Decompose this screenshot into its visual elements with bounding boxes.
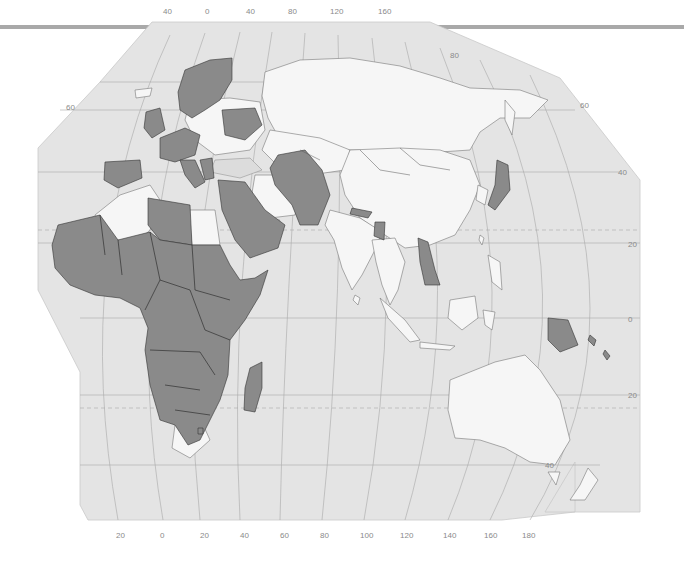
- svg-text:140: 140: [443, 531, 457, 540]
- svg-text:20: 20: [628, 391, 637, 400]
- bottom-longitude-labels: 20 0 20 40 60 80 100 120 140 160 180: [116, 531, 536, 540]
- svg-text:40: 40: [240, 531, 249, 540]
- svg-text:40: 40: [618, 168, 627, 177]
- svg-text:80: 80: [450, 51, 459, 60]
- svg-text:20: 20: [628, 240, 637, 249]
- svg-text:120: 120: [400, 531, 414, 540]
- svg-text:180: 180: [522, 531, 536, 540]
- top-longitude-labels: 40 0 40 80 120 160: [163, 7, 392, 16]
- svg-text:60: 60: [280, 531, 289, 540]
- svg-text:60: 60: [66, 103, 75, 112]
- svg-text:0: 0: [160, 531, 165, 540]
- svg-text:0: 0: [205, 7, 210, 16]
- svg-text:20: 20: [116, 531, 125, 540]
- svg-text:80: 80: [288, 7, 297, 16]
- svg-text:60: 60: [580, 101, 589, 110]
- svg-text:0: 0: [628, 315, 633, 324]
- svg-text:120: 120: [330, 7, 344, 16]
- svg-text:40: 40: [246, 7, 255, 16]
- svg-text:40: 40: [163, 7, 172, 16]
- svg-text:80: 80: [320, 531, 329, 540]
- svg-text:40: 40: [545, 461, 554, 470]
- world-map: 40 0 40 80 120 160 20 0 20 40 60 80 100 …: [0, 0, 684, 571]
- svg-text:160: 160: [484, 531, 498, 540]
- svg-text:100: 100: [360, 531, 374, 540]
- svg-text:20: 20: [200, 531, 209, 540]
- svg-text:160: 160: [378, 7, 392, 16]
